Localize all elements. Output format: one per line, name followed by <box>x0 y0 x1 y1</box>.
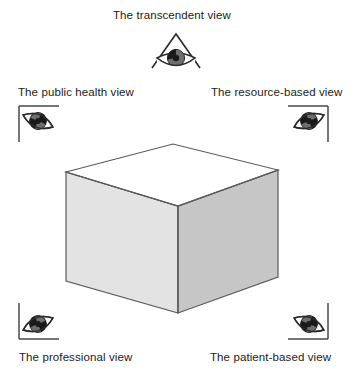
eye-icon-transcendent <box>148 28 204 72</box>
eye-in-peak-icon <box>148 28 204 72</box>
eye-icon-professional <box>16 300 62 342</box>
eye-group <box>291 107 327 135</box>
eye-in-corner-bracket-top-left-icon <box>16 103 62 145</box>
eye-group <box>291 310 327 338</box>
five-views-of-quality-diagram: The transcendent view The public health … <box>0 0 353 375</box>
eye-icon-public-health <box>16 103 62 145</box>
eye-group <box>20 107 56 135</box>
mirror-group <box>288 106 328 142</box>
eye-group <box>20 310 56 338</box>
eye-in-corner-bracket-bottom-left-icon <box>16 300 62 342</box>
eye-pupil <box>173 55 179 61</box>
mirror-group <box>19 303 59 339</box>
eye-icon-resource-based <box>285 103 331 145</box>
eye-in-corner-bracket-top-right-icon <box>285 103 331 145</box>
eye-icon-patient-based <box>285 300 331 342</box>
mirror-group <box>288 303 328 339</box>
eye-in-corner-bracket-bottom-right-icon <box>285 300 331 342</box>
